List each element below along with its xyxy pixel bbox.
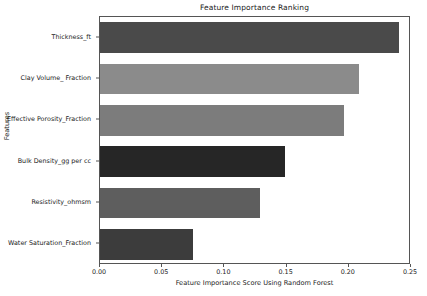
x-axis-tick-label: 0.20	[341, 268, 355, 276]
x-axis-tick-label: 0.10	[216, 268, 230, 276]
chart-title: Feature Importance Ranking	[99, 3, 410, 12]
x-axis-tick-mark	[410, 264, 411, 267]
x-axis-tick-mark	[223, 264, 224, 267]
x-axis-tick-label: 0.25	[403, 268, 417, 276]
y-axis-tick-label: Water Saturation_Fraction	[8, 240, 91, 246]
x-axis-tick-label: 0.00	[92, 268, 106, 276]
bar	[100, 64, 359, 95]
x-axis-tick-mark	[286, 264, 287, 267]
x-axis-tick-mark	[99, 264, 100, 267]
y-axis-tick-group: Thickness_ftClay Volume_ FractionEffecti…	[0, 16, 96, 264]
x-axis-tick-label: 0.05	[154, 268, 168, 276]
y-axis-tick-label: Thickness_ft	[52, 33, 91, 39]
x-axis-tick-group: 0.000.050.100.150.200.25	[99, 264, 410, 280]
y-axis-tick-label: Effective Porosity_Fraction	[7, 116, 91, 122]
bars-layer	[100, 17, 409, 263]
y-axis-tick-label: Resistivity_ohmsm	[31, 199, 91, 205]
x-axis-tick-mark	[161, 264, 162, 267]
x-axis-label: Feature Importance Score Using Random Fo…	[99, 279, 410, 287]
bar	[100, 188, 260, 219]
x-axis-tick-label: 0.15	[278, 268, 292, 276]
chart-figure: Feature Importance Ranking Features Thic…	[0, 0, 427, 296]
bar	[100, 105, 344, 136]
bar	[100, 229, 193, 260]
plot-area	[99, 16, 410, 264]
y-axis-tick-label: Clay Volume_ Fraction	[21, 75, 91, 81]
bar	[100, 22, 399, 53]
x-axis-tick-mark	[348, 264, 349, 267]
y-axis-tick-label: Bulk Density_gg per cc	[18, 157, 91, 163]
bar	[100, 146, 285, 177]
